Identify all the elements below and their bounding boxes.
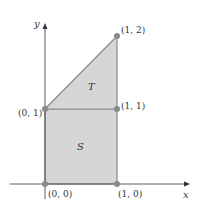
- diagram-canvas: x y T S (0, 0) (1, 0) (0, 1) (1, 1) (1, …: [0, 0, 204, 209]
- point-1-2: [114, 33, 120, 39]
- region-t: [45, 36, 117, 109]
- point-0-0: [42, 181, 48, 187]
- point-0-1: [42, 106, 48, 112]
- point-label-1-0: (1, 0): [118, 189, 142, 199]
- point-label-1-1: (1, 1): [121, 101, 145, 111]
- point-1-0: [114, 181, 120, 187]
- x-axis-arrow-icon: [184, 182, 190, 187]
- y-axis-arrow-icon: [43, 23, 48, 29]
- point-label-1-2: (1, 2): [121, 25, 145, 35]
- x-axis-label: x: [183, 189, 189, 200]
- point-1-1: [114, 106, 120, 112]
- region-s-label: S: [77, 141, 84, 152]
- point-label-0-0: (0, 0): [48, 189, 72, 199]
- point-label-0-1: (0, 1): [18, 108, 42, 118]
- y-axis-label: y: [33, 18, 40, 29]
